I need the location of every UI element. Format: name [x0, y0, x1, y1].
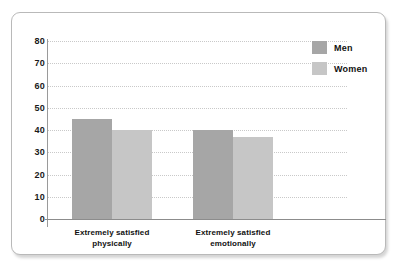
gridline-50	[47, 108, 347, 109]
ytick-label-50: 50	[17, 104, 45, 113]
bar-women-emotionally	[233, 137, 273, 219]
chart-legend: Men Women	[312, 41, 367, 83]
bar-men-emotionally	[193, 130, 233, 219]
gridline-60	[47, 86, 347, 87]
ytick-label-0: 0	[17, 215, 45, 224]
legend-item-women: Women	[312, 62, 367, 75]
legend-swatch-women	[312, 62, 327, 75]
category-label-physically-line2: physically	[52, 238, 172, 249]
gridline-80	[47, 41, 347, 42]
ytick-label-30: 30	[17, 148, 45, 157]
ytick-label-60: 60	[17, 82, 45, 91]
category-label-emotionally-line1: Extremely satisfied	[173, 227, 293, 238]
chart-card: 80 70 60 50 40 30 20 10 0	[11, 12, 386, 255]
category-label-emotionally: Extremely satisfied emotionally	[173, 227, 293, 249]
category-label-physically-line1: Extremely satisfied	[52, 227, 172, 238]
bar-men-physically	[72, 119, 112, 219]
legend-label-men: Men	[334, 43, 353, 53]
gridline-70	[47, 63, 347, 64]
category-label-physically: Extremely satisfied physically	[52, 227, 172, 249]
y-axis-line	[47, 39, 48, 227]
legend-swatch-men	[312, 41, 327, 54]
ytick-label-20: 20	[17, 171, 45, 180]
chart-screenshot: 80 70 60 50 40 30 20 10 0	[0, 0, 399, 271]
ytick-label-10: 10	[17, 193, 45, 202]
category-label-emotionally-line2: emotionally	[173, 238, 293, 249]
bar-women-physically	[112, 130, 152, 219]
legend-label-women: Women	[334, 64, 367, 74]
legend-item-men: Men	[312, 41, 367, 54]
plot-area: 80 70 60 50 40 30 20 10 0	[47, 41, 347, 219]
ytick-label-80: 80	[17, 37, 45, 46]
ytick-label-70: 70	[17, 59, 45, 68]
x-axis-line	[45, 219, 386, 220]
ytick-label-40: 40	[17, 126, 45, 135]
